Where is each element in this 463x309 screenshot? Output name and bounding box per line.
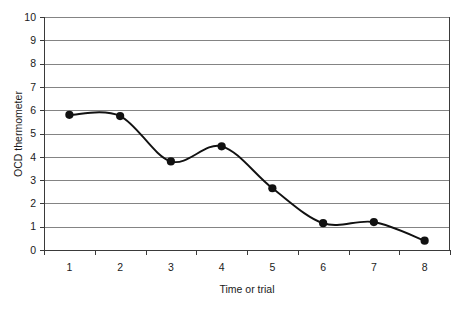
data-point [370, 218, 378, 226]
line-chart: 012345678910 12345678 OCD thermometer Ti… [0, 0, 463, 309]
y-tick-label: 5 [30, 127, 36, 139]
y-tick-label: 10 [24, 11, 36, 23]
y-tick-label: 0 [30, 244, 36, 256]
data-point [167, 157, 175, 165]
y-tick-label: 2 [30, 197, 36, 209]
y-tick-label: 4 [30, 151, 36, 163]
data-point [116, 112, 124, 120]
y-tick-label: 6 [30, 104, 36, 116]
y-tick-label: 9 [30, 34, 36, 46]
x-tick-label: 3 [168, 261, 174, 273]
data-point [421, 237, 429, 245]
x-tick-label: 4 [219, 261, 225, 273]
y-tick-label: 3 [30, 174, 36, 186]
data-point [65, 111, 73, 119]
chart-container: 012345678910 12345678 OCD thermometer Ti… [0, 0, 463, 309]
x-tick-label: 5 [269, 261, 275, 273]
data-point [218, 142, 226, 150]
y-tick-label: 8 [30, 57, 36, 69]
y-tick-label: 7 [30, 81, 36, 93]
x-tick-label: 8 [422, 261, 428, 273]
data-point [268, 184, 276, 192]
x-tick-label: 7 [371, 261, 377, 273]
x-tick-label: 1 [66, 261, 72, 273]
y-axis-title: OCD thermometer [12, 91, 24, 177]
y-tick-label: 1 [30, 220, 36, 232]
data-point [319, 219, 327, 227]
x-tick-label: 2 [117, 261, 123, 273]
x-axis-title: Time or trial [219, 283, 274, 295]
x-tick-label: 6 [320, 261, 326, 273]
